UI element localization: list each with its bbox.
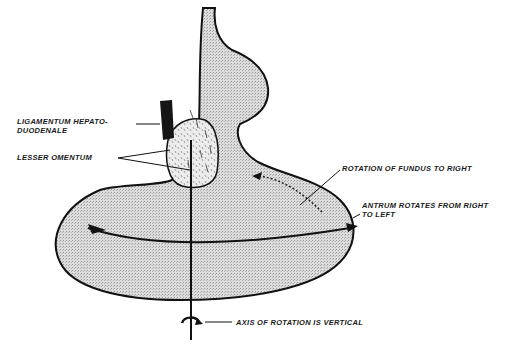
antrum-label-line1: ANTRUM ROTATES FROM RIGHT <box>362 201 488 210</box>
antrum-rotation-label: ANTRUM ROTATES FROM RIGHT TO LEFT <box>362 201 488 219</box>
stomach-rotation-diagram: LIGAMENTUM HEPATO- DUODENALE LESSER OMEN… <box>0 0 523 346</box>
lesser-omentum-shape <box>167 119 219 188</box>
diagram-drawing <box>0 0 523 346</box>
lesser-omentum-label: LESSER OMENTUM <box>17 153 92 162</box>
ligamentum-shape <box>160 100 174 140</box>
ligamentum-label-line1: LIGAMENTUM HEPATO- <box>17 117 108 126</box>
ligamentum-label: LIGAMENTUM HEPATO- DUODENALE <box>17 117 108 135</box>
fundus-rotation-label: ROTATION OF FUNDUS TO RIGHT <box>342 164 472 173</box>
axis-label: AXIS OF ROTATION IS VERTICAL <box>236 318 363 327</box>
ligamentum-label-line2: DUODENALE <box>17 126 108 135</box>
antrum-label-line2: TO LEFT <box>362 210 488 219</box>
